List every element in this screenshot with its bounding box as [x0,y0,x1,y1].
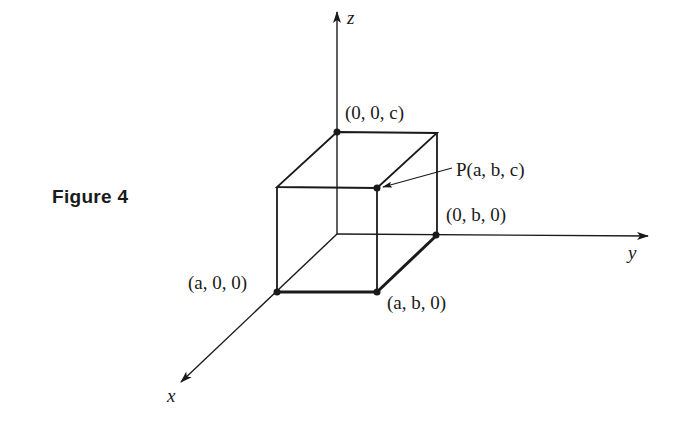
point-x-dot [274,289,281,296]
point-y-dot [433,232,440,239]
point-y-label: (0, b, 0) [446,204,506,226]
x-axis [181,234,337,382]
point-p-dot [374,185,381,192]
box-edge-bottom-right [377,235,437,292]
y-axis [337,234,648,236]
point-xy-dot [374,289,381,296]
point-xy-label: (a, b, 0) [387,292,446,314]
point-z-dot [334,129,341,136]
coordinate-box-diagram: z y x (0, 0, c) P(a, b, c) (0, b, 0) (a,… [0,0,680,429]
point-x-label: (a, 0, 0) [188,272,247,294]
point-p-label: P(a, b, c) [456,159,525,181]
y-axis-label: y [626,242,637,263]
p-pointer-arrow [383,168,452,187]
z-axis-label: z [346,7,355,28]
x-axis-label: x [166,385,176,406]
box-top-face [277,132,437,188]
point-z-label: (0, 0, c) [345,102,404,124]
